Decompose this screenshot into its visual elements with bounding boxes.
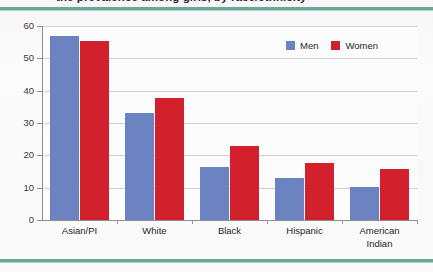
x-axis-label-hispanic: Hispanic (267, 225, 342, 238)
bar-women-black (230, 146, 259, 220)
legend-swatch-men-icon (286, 41, 295, 50)
x-axis-label-white: White (117, 225, 192, 238)
x-axis-line (42, 220, 418, 221)
bar-chart: 0102030405060 Asian/PIWhiteBlackHispanic… (0, 12, 433, 258)
legend-item-men: Men (286, 40, 318, 51)
y-tick-60 (37, 26, 42, 27)
legend-swatch-women-icon (331, 41, 340, 50)
bar-men-american-indian (350, 187, 379, 220)
bar-men-hispanic (275, 178, 304, 220)
y-tick-label-30: 30 (4, 117, 34, 128)
legend-item-women: Women (331, 40, 378, 51)
y-tick-label-60: 60 (4, 20, 34, 31)
bottom-rule-hairline (0, 262, 433, 263)
bar-women-white (155, 98, 184, 220)
y-tick-20 (37, 155, 42, 156)
category-separator-2 (192, 220, 193, 224)
y-tick-50 (37, 58, 42, 59)
y-tick-10 (37, 188, 42, 189)
category-separator-4 (342, 220, 343, 224)
y-tick-label-10: 10 (4, 182, 34, 193)
clipped-title-region: the prevalence among girls, by race/ethn… (0, 0, 433, 7)
bar-women-hispanic (305, 163, 334, 220)
y-tick-label-0: 0 (4, 214, 34, 225)
y-tick-label-50: 50 (4, 52, 34, 63)
y-tick-label-40: 40 (4, 85, 34, 96)
legend-label-men: Men (300, 40, 318, 51)
chart-legend: MenWomen (286, 40, 378, 51)
bar-women-american-indian (380, 169, 409, 220)
y-tick-40 (37, 91, 42, 92)
category-separator-5 (417, 220, 418, 224)
top-rule-hairline (0, 10, 433, 11)
bar-men-white (125, 113, 154, 220)
y-tick-30 (37, 123, 42, 124)
category-separator-3 (267, 220, 268, 224)
gridline-60 (42, 26, 417, 27)
x-axis-label-black: Black (192, 225, 267, 238)
legend-label-women: Women (345, 40, 378, 51)
y-tick-0 (37, 220, 42, 221)
category-separator-1 (117, 220, 118, 224)
bar-men-black (200, 167, 229, 220)
y-axis-line (42, 26, 43, 221)
y-tick-label-20: 20 (4, 149, 34, 160)
x-axis-label-asian-pi: Asian/PI (42, 225, 117, 238)
bar-men-asian-pi (50, 36, 79, 220)
x-axis-label-american-indian: AmericanIndian (342, 225, 417, 250)
x-axis-labels: Asian/PIWhiteBlackHispanicAmericanIndian (42, 225, 417, 258)
bar-women-asian-pi (80, 41, 109, 220)
y-axis-labels: 0102030405060 (0, 26, 34, 221)
page-title: the prevalence among girls, by race/ethn… (56, 0, 307, 3)
